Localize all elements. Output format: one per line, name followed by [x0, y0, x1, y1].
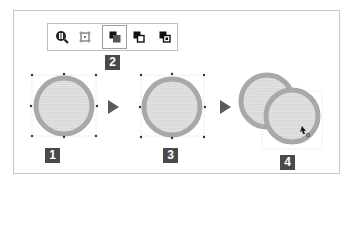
step-badge-3: 3: [163, 148, 178, 163]
step-badge-1: 1: [45, 148, 60, 163]
arrow-right-icon: [220, 100, 231, 114]
step-badge-2: 2: [105, 55, 120, 70]
step4-circle-group: [241, 75, 322, 149]
step3-circle-group: [139, 73, 206, 139]
step-badge-4: 4: [280, 155, 295, 170]
step1-circle-group: [30, 73, 98, 138]
arrow-right-icon: [108, 100, 119, 114]
